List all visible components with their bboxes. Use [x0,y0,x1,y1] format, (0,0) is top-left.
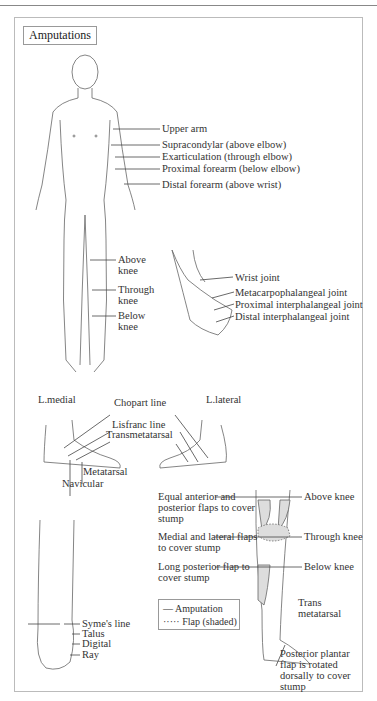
label-metatarsal: Metatarsal [83,466,127,477]
label-wrist-joint: Wrist joint [235,272,280,283]
label-flap-below-knee: Long posterior flap to cover stump [158,561,252,583]
label-digital: Digital [82,638,111,649]
label-medial: L.medial [38,394,76,405]
label-level-below-knee: Below knee [304,561,354,572]
hand-illustration [172,250,234,335]
label-lateral: L.lateral [206,394,241,405]
label-level-through-knee: Through knee [304,531,363,542]
label-chopart-line: Chopart line [114,397,166,408]
lateral-foot-illustration [160,415,227,468]
label-transmetatarsal: Transmetatarsal [106,429,173,440]
label-distal-forearm: Distal forearm (above wrist) [162,179,281,190]
legend-item-amputation: — Amputation [163,602,235,615]
label-navicular: Navicular [62,478,103,489]
label-trans-metatarsal: Trans metatarsal [298,597,348,619]
label-plantar-note: Posterior plantar flap is rotated dorsal… [280,648,360,692]
legend-item-flap: ····· Flap (shaded) [163,615,235,628]
label-upper-arm: Upper arm [162,123,207,134]
label-flap-through-knee: Medial and lateral flaps to cover stump [158,531,258,553]
label-above-knee: Above knee [118,254,154,276]
label-level-above-knee: Above knee [304,491,354,502]
label-exarticulation: Exarticulation (through elbow) [162,151,292,162]
label-pip-joint: Proximal interphalangeal joint [235,299,363,310]
illustrations [0,0,377,701]
label-supracondylar: Supracondylar (above elbow) [162,139,286,150]
label-dip-joint: Distal interphalangeal joint [235,311,349,322]
legend: — Amputation ····· Flap (shaded) [158,599,240,630]
label-ray: Ray [82,649,99,660]
label-below-knee: Below knee [118,310,154,332]
ankle-foot-illustration [28,520,80,669]
label-flap-above-knee: Equal anterior and posterior flaps to co… [158,491,258,524]
label-through-knee: Through knee [118,284,158,306]
label-proximal-forearm: Proximal forearm (below elbow) [162,163,300,174]
label-mcp-joint: Metacarpophalangeal joint [235,287,347,298]
